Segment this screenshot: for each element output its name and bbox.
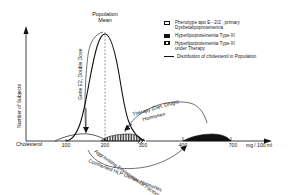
legend-item-type-iii: Hyperlipoproteinemia Type III — [164, 33, 304, 38]
phenotype-apoE22-distribution — [55, 134, 108, 141]
legend-item-label-2: under Therapy — [175, 46, 235, 51]
open-box-icon — [164, 21, 170, 25]
y-axis — [24, 26, 29, 141]
y-axis-label: Number of Subjects — [16, 84, 22, 128]
hatched-box-icon — [164, 41, 170, 45]
x-tick-100: 100 — [62, 142, 71, 148]
coinherited-label: Coinherited HLP-Genes, Hormones — [88, 157, 164, 192]
legend-item-apoE22: Phenotype apo E - 2/2 , primary Dysbetal… — [164, 20, 304, 31]
legend-item-label: Hyperlipoproteinemia Type III — [175, 33, 235, 38]
solid-box-icon — [164, 34, 170, 38]
x-tick-200: 200 — [101, 142, 110, 148]
line-icon — [164, 56, 174, 57]
type-iii-distribution — [183, 134, 231, 141]
legend-item-label-2: Dysbetalipoproteinemia — [175, 25, 240, 30]
legend-item-population: Distribution of cholesterol in Populatio… — [164, 54, 304, 59]
population-mean-label-line2: Mean — [98, 17, 112, 23]
x-axis-label: Cholesterol — [16, 141, 42, 147]
x-axis-unit: mg / 100 ml — [246, 142, 272, 148]
x-tick-700: 700 — [229, 142, 238, 148]
gene-e2-arc — [85, 32, 103, 133]
legend: Phenotype apo E - 2/2 , primary Dysbetal… — [164, 20, 304, 61]
gene-e2-label: Gene E2, Double Dose — [77, 48, 83, 100]
legend-item-type-iii-therapy: Hyperlipoproteinemia Type III under Ther… — [164, 41, 304, 52]
y-axis-arrow-icon — [24, 26, 29, 34]
x-tick-300: 300 — [139, 142, 148, 148]
x-tick-400: 400 — [179, 142, 188, 148]
legend-item-label: Distribution of cholesterol in Populatio… — [177, 54, 256, 59]
